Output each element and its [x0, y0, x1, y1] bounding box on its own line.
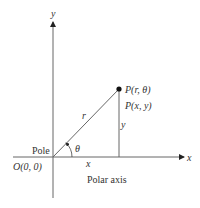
- vertical-segment-label: y: [120, 119, 126, 130]
- polar-axis-label: Polar axis: [87, 174, 127, 185]
- pole-label: Pole: [32, 145, 50, 156]
- x-axis-label: x: [186, 152, 192, 163]
- y-axis-label: y: [50, 8, 56, 19]
- radius-line: [53, 89, 119, 157]
- angle-label: θ: [75, 143, 80, 154]
- polar-coordinates-diagram: y x P(r, θ) P(x, y) r y θ x Pole O(0, 0)…: [0, 0, 200, 208]
- cartesian-point-label: P(x, y): [124, 100, 152, 112]
- polar-point-label: P(r, θ): [124, 84, 151, 96]
- angle-arc: [66, 143, 72, 157]
- horizontal-segment-label: x: [85, 158, 91, 169]
- point-p: [116, 86, 121, 91]
- origin-label: O(0, 0): [13, 161, 43, 173]
- radius-label: r: [82, 110, 86, 121]
